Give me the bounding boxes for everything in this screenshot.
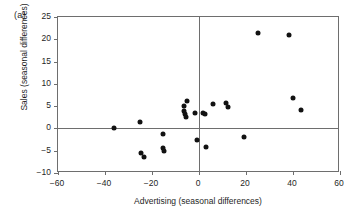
x-axis-tick-label: 40 xyxy=(272,178,312,188)
data-point xyxy=(204,144,209,149)
x-axis-tick xyxy=(340,171,341,175)
x-axis-tick xyxy=(199,171,200,175)
data-point xyxy=(160,131,165,136)
data-point xyxy=(138,119,143,124)
x-axis-tick-label: −40 xyxy=(84,178,124,188)
x-axis-tick xyxy=(58,171,59,175)
x-axis-tick-label: 20 xyxy=(225,178,265,188)
plot-area xyxy=(57,16,339,172)
data-point xyxy=(291,96,296,101)
data-point xyxy=(226,104,231,109)
x-axis-tick-label: 60 xyxy=(319,178,354,188)
x-axis-title: Advertising (seasonal differences) xyxy=(57,196,339,206)
zero-vertical-reference-line xyxy=(199,17,200,171)
x-axis-tick xyxy=(293,171,294,175)
x-axis-tick xyxy=(246,171,247,175)
x-axis-tick-label: 0 xyxy=(178,178,218,188)
y-axis-tick-label: −5 xyxy=(21,145,51,155)
data-point xyxy=(185,98,190,103)
data-point xyxy=(193,111,198,116)
y-axis-tick xyxy=(54,106,58,107)
data-point xyxy=(287,32,292,37)
y-axis-tick xyxy=(54,39,58,40)
y-axis-tick xyxy=(54,62,58,63)
data-point xyxy=(112,126,117,131)
x-axis-tick-label: −60 xyxy=(37,178,77,188)
data-point xyxy=(241,135,246,140)
data-point xyxy=(141,154,146,159)
scatter-plot-figure: (a) Sales (seasonal differences) Adverti… xyxy=(0,0,354,216)
data-point xyxy=(194,137,199,142)
data-point xyxy=(161,148,166,153)
y-axis-tick xyxy=(54,151,58,152)
y-axis-tick xyxy=(54,17,58,18)
y-axis-tick-label: 10 xyxy=(21,78,51,88)
data-point xyxy=(202,111,207,116)
y-axis-tick-label: 20 xyxy=(21,33,51,43)
data-point xyxy=(211,102,216,107)
y-axis-tick-label: −10 xyxy=(21,167,51,177)
y-axis-tick-label: 5 xyxy=(21,100,51,110)
y-axis-tick-label: 25 xyxy=(21,11,51,21)
data-point xyxy=(299,107,304,112)
x-axis-tick-label: −20 xyxy=(131,178,171,188)
y-axis-tick-label: 0 xyxy=(21,122,51,132)
x-axis-tick xyxy=(152,171,153,175)
data-point xyxy=(184,115,189,120)
x-axis-tick xyxy=(105,171,106,175)
data-point xyxy=(255,31,260,36)
zero-horizontal-reference-line xyxy=(58,128,338,129)
y-axis-tick-label: 15 xyxy=(21,56,51,66)
y-axis-tick xyxy=(54,84,58,85)
y-axis-tick xyxy=(54,128,58,129)
